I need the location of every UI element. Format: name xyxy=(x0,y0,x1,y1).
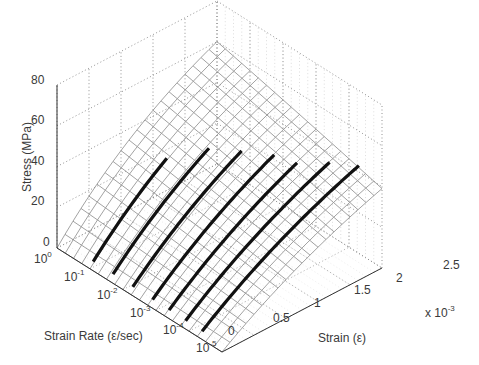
plot-line xyxy=(57,42,217,248)
x-tick-1.5: 1.5 xyxy=(354,283,371,297)
plot-line xyxy=(97,227,262,331)
plot-line xyxy=(153,155,275,300)
plot-line xyxy=(140,114,300,300)
y-tick-3: 10-3 xyxy=(130,304,150,320)
x-tick-2.5: 2.5 xyxy=(443,258,460,272)
z-tick-80: 80 xyxy=(31,73,44,87)
plot-line xyxy=(131,107,291,295)
plot-line xyxy=(57,83,217,167)
z-tick-40: 40 xyxy=(31,154,44,168)
z-tick-60: 60 xyxy=(31,113,44,127)
plot-line xyxy=(214,181,374,347)
y-axis-label: Strain Rate (ε/sec) xyxy=(44,329,143,343)
x-tick-0.5: 0.5 xyxy=(273,311,290,325)
y-tick-1: 10-1 xyxy=(64,268,84,284)
x-tick-2: 2 xyxy=(396,271,403,285)
y-tick-4: 10-4 xyxy=(163,321,183,337)
y-tick-2: 10-2 xyxy=(97,286,117,302)
plot-line xyxy=(98,78,258,274)
plot-line xyxy=(201,172,366,276)
plot-line xyxy=(193,177,358,281)
surface-plot xyxy=(0,0,479,365)
x-axis-label: Strain (ε) xyxy=(318,331,366,345)
plot-line xyxy=(57,1,217,85)
y-tick-5: 10-5 xyxy=(196,339,216,355)
plot-line xyxy=(202,166,359,332)
x-tick-1: 1 xyxy=(314,296,321,310)
x-multiplier: x 10-3 xyxy=(425,304,455,320)
z-tick-0: 0 xyxy=(43,235,50,249)
x-tick-0: 0 xyxy=(228,324,235,338)
y-tick-0: 100 xyxy=(34,250,52,266)
z-tick-20: 20 xyxy=(31,194,44,208)
